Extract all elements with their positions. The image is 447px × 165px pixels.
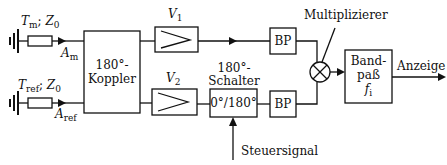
arrow-icon [229, 37, 237, 45]
switch-title: 180°-Schalter [204, 62, 264, 88]
resistor-icon [28, 98, 52, 108]
output-aref-label: Aref [55, 108, 77, 125]
control-signal-label: Steuersignal [241, 145, 318, 158]
multiplier-label: Multiplizierer [304, 9, 388, 22]
arrow-icon [58, 99, 66, 107]
arrow-up-icon [229, 117, 237, 126]
arrow-icon [337, 68, 345, 76]
amplifier-v1-label: V1 [168, 8, 182, 25]
bp-label-2: BP [270, 97, 296, 111]
switch-inner-label: 0°/180° [210, 96, 257, 110]
bp-label-1: BP [270, 34, 296, 48]
resistor-icon [28, 36, 52, 46]
coupler-label: 180°-Koppler [84, 58, 140, 86]
amplifier-triangle-icon [161, 31, 190, 48]
amplifier-v2-label: V2 [166, 72, 180, 89]
source-m-label: Tm; Z0 [21, 15, 60, 32]
leader-line [322, 28, 335, 62]
amplifier-triangle-icon [158, 93, 188, 111]
output-am-label: Am [61, 47, 78, 64]
bandpass-label: Band-paßfi [345, 54, 392, 100]
source-ref-label: Tref; Z0 [18, 79, 61, 96]
arrow-icon [58, 37, 66, 45]
arrow-icon [438, 73, 446, 81]
output-label: Anzeige [397, 60, 445, 73]
